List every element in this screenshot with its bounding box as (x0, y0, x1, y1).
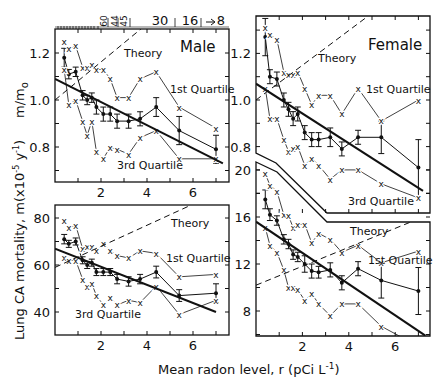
mean-point (62, 56, 66, 60)
y-tick-label: 12 (234, 257, 251, 272)
y-tick-label: 1.0 (29, 93, 50, 108)
x-marker: x (339, 299, 345, 309)
top-axis-label: 16 (182, 13, 199, 28)
x-marker: x (302, 84, 308, 94)
x-marker: x (274, 248, 280, 258)
x-marker: x (94, 246, 100, 256)
x-marker: x (108, 74, 114, 84)
x-marker: x (101, 65, 107, 75)
mean-point (356, 267, 360, 271)
mean-point (214, 291, 218, 295)
mean-point (356, 135, 360, 139)
x-marker: x (101, 154, 107, 164)
female-upper-q1-label: 1st Quartile (366, 83, 431, 96)
x-marker: x (416, 342, 422, 352)
y-tick-label: 16 (234, 210, 251, 225)
mean-point (94, 105, 98, 109)
x-marker: x (295, 285, 301, 295)
x-marker: x (94, 291, 100, 301)
radon-lung-cancer-figure: xxxxxxxxxxxxxxxxxxxxxxxxxxxxxx2460.81.01… (0, 0, 442, 383)
x-marker: x (309, 100, 315, 110)
x-tick-label: 2 (97, 338, 105, 353)
mean-point (379, 135, 383, 139)
x-marker: x (66, 100, 72, 110)
x-marker: x (263, 169, 269, 179)
y-tick-label: 1.2 (230, 46, 251, 61)
x-marker: x (177, 103, 183, 113)
x-marker: x (328, 235, 334, 245)
x-marker: x (137, 133, 143, 143)
x-tick-label: 6 (189, 338, 197, 353)
y-axis-title-lower: Lung CA mortality, m(x10-5 y-1) (12, 140, 27, 340)
x-marker: x (416, 193, 422, 203)
female-lower-theory-label: Theory (349, 225, 389, 238)
x-marker: x (126, 296, 132, 306)
mean-point (74, 70, 78, 74)
x-marker: x (355, 84, 361, 94)
y-tick-label: 80 (33, 211, 50, 226)
x-tick-label: 6 (189, 185, 197, 200)
x-marker: x (309, 154, 315, 164)
mean-point (154, 105, 158, 109)
x-marker: x (66, 44, 72, 54)
male-upper-q1-label: 1st Quartile (170, 83, 235, 96)
x-marker: x (94, 147, 100, 157)
x-axis-title: Mean radon level, r (pCi L-1) (158, 361, 340, 377)
mean-point (286, 107, 290, 111)
mean-point (154, 270, 158, 274)
x-marker: x (267, 114, 273, 124)
x-marker: x (316, 91, 322, 101)
x-marker: x (137, 298, 143, 308)
y-tick-label: 60 (33, 258, 50, 273)
top-axis-label: 30 (152, 13, 169, 28)
mean-point (416, 166, 420, 170)
male-upper-q3-label: 3rd Quartile (117, 159, 183, 172)
y-tick-label: 40 (33, 305, 50, 320)
y-tick-label: 0.8 (29, 140, 50, 155)
x-marker: x (379, 322, 385, 332)
mean-point (101, 112, 105, 116)
male-lower-q3-label: 3rd Quartile (75, 308, 141, 321)
mean-point (85, 263, 89, 267)
male-upper-theory-label: Theory (123, 47, 163, 60)
x-marker: x (274, 187, 280, 197)
x-tick-label: 2 (97, 185, 105, 200)
x-marker: x (355, 299, 361, 309)
x-marker: x (126, 93, 132, 103)
chart-canvas: xxxxxxxxxxxxxxxxxxxxxxxxxxxxxx2460.81.01… (0, 0, 442, 383)
x-marker: x (114, 93, 120, 103)
mean-point (85, 98, 89, 102)
x-marker: x (177, 272, 183, 282)
x-marker: x (316, 299, 322, 309)
x-marker: x (379, 179, 385, 189)
y-tick-label: 20 (234, 163, 251, 178)
male-lower-q1-label: 1st Quartile (166, 252, 231, 265)
x-marker: x (309, 238, 315, 248)
x-marker: x (154, 249, 160, 259)
mean-point (268, 213, 272, 217)
x-marker: x (339, 165, 345, 175)
x-marker: x (126, 253, 132, 263)
x-marker: x (89, 117, 95, 127)
top-axis-label: 60 (99, 15, 109, 27)
x-marker: x (73, 96, 79, 106)
x-marker: x (286, 211, 292, 221)
mean-point (296, 255, 300, 259)
mean-point (127, 279, 131, 283)
mean-point (74, 240, 78, 244)
mean-point (67, 242, 71, 246)
female-upper-q3-label: 3rd Quartile (348, 195, 414, 208)
x-marker: x (274, 114, 280, 124)
female-lower-q1-label: 1st Quartile (368, 254, 433, 267)
mean-point (62, 237, 66, 241)
mean-point (214, 147, 218, 151)
x-marker: x (267, 30, 273, 40)
mean-point (317, 138, 321, 142)
mean-point (268, 75, 272, 79)
regression-line (256, 222, 425, 336)
x-marker: x (339, 109, 345, 119)
x-marker: x (62, 65, 68, 75)
x-marker: x (114, 145, 120, 155)
x-marker: x (355, 165, 361, 175)
male-panel-title: Male (180, 38, 216, 56)
